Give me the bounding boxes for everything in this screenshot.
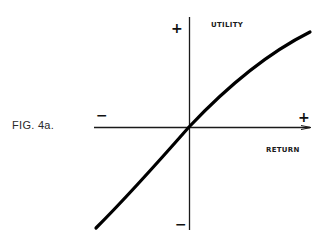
utility-curve [96, 32, 310, 228]
figure-4a: FIG. 4a. UTILITY RETURN + − − + [0, 0, 331, 250]
figure-caption: FIG. 4a. [12, 119, 54, 131]
y-negative-sign: − [175, 217, 187, 231]
x-negative-sign: − [96, 108, 108, 122]
y-axis-label: UTILITY [211, 21, 243, 29]
x-positive-sign: + [298, 110, 310, 124]
y-positive-sign: + [171, 21, 183, 35]
x-axis-label: RETURN [266, 146, 300, 154]
